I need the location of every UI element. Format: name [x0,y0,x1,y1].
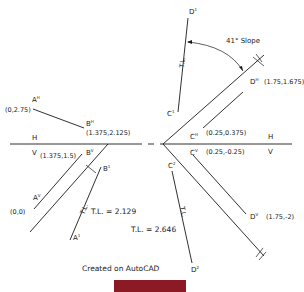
tl-value-left: T.L. = 2.129 [90,207,136,216]
slope-arrow-right [239,66,243,71]
coord-c-v: (0.25,-0.25) [206,148,244,156]
label-c-1: C1 [167,109,175,118]
coord-a-h: (0,2.75) [5,106,31,114]
tl-tag-right-lower: T.L. [178,205,188,218]
coord-a-v: (0,0) [10,208,25,216]
label-d-2: D2 [191,265,199,274]
fold-tick-v2-b [259,252,266,260]
label-c-h: CH [190,132,198,141]
slope-arrow-left [187,40,192,44]
label-a-1: A1 [73,233,81,242]
line-ab-true-length [70,167,101,240]
fold-tick-v1 [86,165,96,173]
caption-bar [114,280,186,292]
tl-tag-left: T.L. [78,203,90,217]
fold-tick-v2-a [256,248,263,257]
coord-b-h: (1.375,2.125) [86,129,130,137]
coord-d-h: (1.75,1.675) [264,78,304,86]
line-ab-horizontal-view [33,109,84,128]
drawing-canvas: H V AH (0,2.75) BH (1.375,2.125) AV (0,0… [0,0,304,292]
fold-tick-h1-a [253,57,264,66]
line-cd-vertical-view [193,155,246,214]
label-d-1: D1 [189,7,197,16]
fold-label-h-left: H [32,134,37,142]
label-b-h: BH [86,119,94,128]
label-a-v: AV [33,193,41,202]
label-c-2: C2 [168,161,176,170]
fold-label-v-left: V [32,149,37,157]
coord-b-v: (1.375,1.5) [40,152,76,160]
label-b-v: BV [86,148,94,157]
coord-c-h: (0.25,0.375) [206,129,246,137]
slope-label: 41° Slope [226,37,260,45]
tl-value-right: T.L. = 2.646 [130,225,176,234]
footer-created-on: Created on AutoCAD [82,264,160,273]
fold-label-v-right: V [268,148,273,156]
label-a-h: AH [32,95,40,104]
label-c-v: CV [190,148,198,157]
line-cd-horizontal-view [203,92,243,128]
tl-tag-right-upper: T.L. [178,56,187,69]
label-b-1: B1 [103,164,111,173]
fold-label-h-right: H [268,133,273,141]
coord-d-v: (1.75,-2) [266,213,294,221]
label-d-v: DV [250,212,258,221]
label-d-h: DH [250,77,258,86]
slope-arc [188,42,243,71]
